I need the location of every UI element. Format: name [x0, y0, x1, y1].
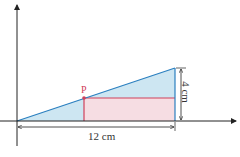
height-label: 4 cm — [180, 81, 192, 103]
width-label: 12 cm — [88, 130, 115, 142]
diagram-canvas — [0, 0, 240, 157]
point-p-label: P — [81, 84, 87, 95]
point-p — [82, 96, 86, 100]
rectangle — [84, 98, 175, 121]
